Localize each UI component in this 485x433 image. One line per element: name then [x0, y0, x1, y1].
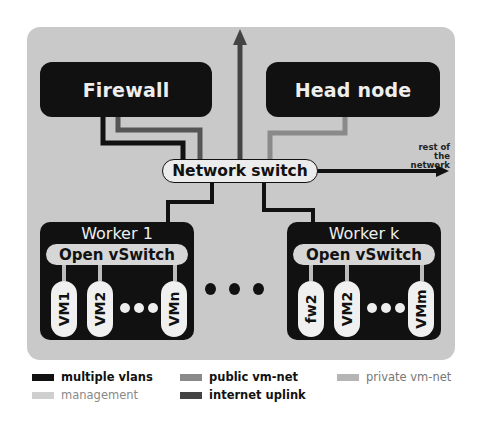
- vm-link: [345, 265, 349, 281]
- wire-firewall-vlans: [103, 115, 183, 162]
- vm-link: [173, 265, 177, 281]
- wire-headnode-public: [270, 115, 345, 162]
- network-switch: Network switch: [162, 159, 318, 183]
- legend-item-management: management: [32, 388, 138, 402]
- worker-k-vm-2: VM2: [334, 281, 360, 337]
- worker-k-open-vswitch: Open vSwitch: [293, 244, 435, 265]
- vm-link: [62, 265, 66, 281]
- firewall-label: Firewall: [83, 79, 170, 101]
- legend-swatch-icon: [180, 392, 202, 399]
- network-switch-label: Network switch: [172, 162, 308, 180]
- worker-1-label: Worker 1: [40, 224, 194, 243]
- more-workers-ellipsis-icon: [205, 283, 264, 295]
- vm-link: [420, 265, 424, 281]
- worker-k-label: Worker k: [287, 224, 441, 243]
- head-node-label: Head node: [295, 79, 412, 101]
- wire-switch-worker1: [168, 180, 212, 224]
- ellipsis-icon: [367, 303, 405, 313]
- legend-item-internet-uplink: internet uplink: [180, 388, 306, 402]
- worker-1-vm-2: VM2: [87, 281, 113, 337]
- worker-1-vm-n: VMn: [161, 281, 187, 337]
- legend: multiple vlans public vm-net private vm-…: [32, 370, 472, 410]
- vm-link: [98, 265, 102, 281]
- legend-swatch-icon: [32, 374, 54, 381]
- legend-item-private-vm-net: private vm-net: [337, 370, 451, 384]
- legend-swatch-icon: [180, 374, 202, 381]
- rest-of-network-label: rest of the network: [405, 143, 450, 170]
- ellipsis-icon: [120, 303, 158, 313]
- firewall-node: Firewall: [40, 62, 212, 117]
- worker-k: Worker k Open vSwitch fw2 VM2 VMm: [287, 222, 441, 340]
- legend-swatch-icon: [337, 374, 359, 381]
- vm-link: [309, 265, 313, 281]
- worker-1-vm-1: VM1: [51, 281, 77, 337]
- worker-k-vm-fw2: fw2: [298, 281, 324, 337]
- worker-1: Worker 1 Open vSwitch VM1 VM2 VMn: [40, 222, 194, 340]
- wire-switch-workerk: [264, 180, 313, 224]
- head-node: Head node: [266, 62, 440, 117]
- arrow-up-head: [233, 29, 247, 45]
- worker-k-vm-m: VMm: [408, 281, 434, 337]
- legend-swatch-icon: [32, 392, 54, 399]
- wire-firewall-uplink: [118, 115, 200, 162]
- worker-1-open-vswitch: Open vSwitch: [46, 244, 188, 265]
- legend-item-multiple-vlans: multiple vlans: [32, 370, 153, 384]
- legend-item-public-vm-net: public vm-net: [180, 370, 298, 384]
